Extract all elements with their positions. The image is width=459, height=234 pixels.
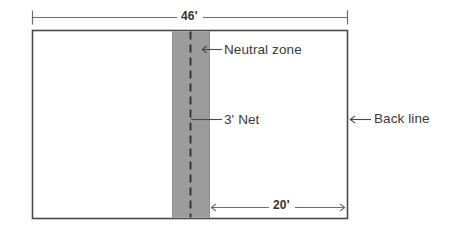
callout-net-label: 3' Net bbox=[224, 113, 259, 127]
dimension-46-label: 46' bbox=[181, 10, 198, 22]
callout-back-line-label: Back line bbox=[374, 112, 430, 126]
callout-back-line-leader bbox=[350, 116, 371, 123]
court-diagram: Neutral zone 3' Net Back line 46' 20' bbox=[0, 0, 459, 234]
dimension-20-label: 20' bbox=[273, 199, 290, 211]
callout-neutral-zone-label: Neutral zone bbox=[224, 43, 302, 57]
